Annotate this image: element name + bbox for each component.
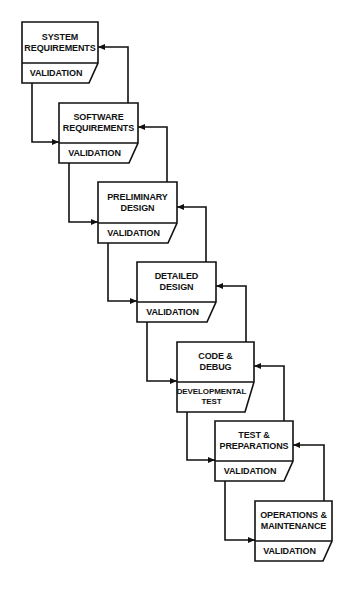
stage-footer-text: VALIDATION (68, 148, 121, 159)
stage-footer-text: VALIDATION (263, 546, 316, 557)
stage-title-text: PRELIMINARYDESIGN (107, 192, 168, 214)
feedback-arrow-software-requirements (98, 47, 128, 103)
forward-arrow-code-debug (187, 412, 215, 460)
stage-footer-system-requirements: VALIDATION (22, 63, 90, 83)
stage-footer-software-requirements: VALIDATION (59, 143, 130, 163)
stage-title-text: TEST &PREPARATIONS (220, 430, 289, 452)
stage-title-text: SOFTWAREREQUIREMENTS (63, 112, 134, 134)
stage-title-text: SYSTEMREQUIREMENTS (24, 32, 95, 54)
stage-title-test-preparations: TEST &PREPARATIONS (215, 421, 293, 461)
forward-arrow-system-requirements (32, 83, 59, 142)
feedback-arrow-operations-maintenance (293, 445, 324, 501)
feedback-arrow-preliminary-design (138, 127, 167, 182)
feedback-arrow-detailed-design (177, 207, 206, 262)
stage-title-preliminary-design: PRELIMINARYDESIGN (98, 182, 177, 223)
stage-title-detailed-design: DETAILEDDESIGN (137, 262, 216, 302)
forward-arrow-detailed-design (147, 322, 177, 381)
forward-arrow-preliminary-design (108, 243, 137, 301)
stage-footer-preliminary-design: VALIDATION (98, 223, 169, 243)
stage-footer-operations-maintenance: VALIDATION (255, 541, 324, 561)
stage-title-software-requirements: SOFTWAREREQUIREMENTS (59, 103, 138, 143)
stage-title-text: DETAILEDDESIGN (155, 271, 199, 293)
stage-title-text: CODE &DEBUG (198, 351, 232, 373)
stage-footer-test-preparations: VALIDATION (215, 461, 285, 481)
stage-title-text: OPERATIONS &MAINTENANCE (260, 510, 327, 532)
stage-footer-code-debug: DEVELOPMENTALTEST (177, 382, 246, 412)
feedback-arrow-code-debug (216, 286, 246, 342)
forward-arrow-test-preparations (225, 481, 255, 540)
stage-footer-text: VALIDATION (224, 466, 277, 477)
stage-footer-text: VALIDATION (30, 68, 83, 79)
feedback-arrow-test-preparations (254, 366, 284, 421)
stage-footer-text: DEVELOPMENTALTEST (177, 387, 247, 407)
stage-title-system-requirements: SYSTEMREQUIREMENTS (22, 22, 98, 63)
stage-title-code-debug: CODE &DEBUG (177, 342, 254, 382)
stage-footer-text: VALIDATION (107, 228, 160, 239)
forward-arrow-software-requirements (69, 163, 98, 222)
stage-footer-detailed-design: VALIDATION (137, 302, 208, 322)
stage-title-operations-maintenance: OPERATIONS &MAINTENANCE (255, 501, 332, 541)
stage-footer-text: VALIDATION (146, 307, 199, 318)
